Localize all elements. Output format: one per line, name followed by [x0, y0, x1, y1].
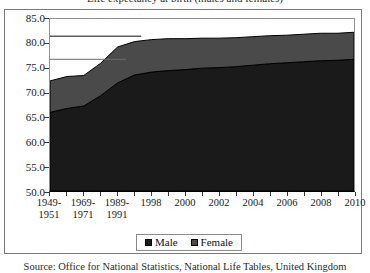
x-tick-label: 2004 — [243, 197, 264, 209]
y-axis: 85.080.075.070.065.060.055.050.0 — [5, 10, 45, 200]
legend-swatch-icon — [191, 239, 198, 246]
x-tick-mark — [117, 192, 118, 196]
x-tick-mark — [253, 192, 254, 196]
y-tick-label: 85.0 — [5, 13, 45, 24]
chart-legend: MaleFemale — [136, 234, 242, 251]
x-tick-mark — [338, 192, 339, 196]
x-tick-mark — [185, 192, 186, 196]
x-tick-mark — [236, 192, 237, 196]
y-tick-label: 75.0 — [5, 62, 45, 73]
x-tick-mark — [168, 192, 169, 196]
x-tick-label: 1949-1951 — [37, 197, 62, 221]
y-tick-label: 60.0 — [5, 137, 45, 148]
x-tick-label: 1998 — [141, 197, 162, 209]
x-tick-mark — [219, 192, 220, 196]
x-axis: 1949-19511969-19711989-19911998200020022… — [5, 197, 363, 231]
y-tick-label: 50.0 — [5, 187, 45, 198]
x-tick-label: 2000 — [175, 197, 196, 209]
y-tick-label: 80.0 — [5, 37, 45, 48]
chart-title: Life expectancy at birth (males and fema… — [0, 0, 370, 4]
legend-label: Male — [155, 237, 178, 248]
x-tick-label-line2: 1991 — [105, 209, 130, 221]
legend-item-male[interactable]: Male — [145, 237, 178, 248]
x-tick-mark — [270, 192, 271, 196]
x-tick-label: 2002 — [209, 197, 230, 209]
x-tick-mark — [151, 192, 152, 196]
y-tick-label: 70.0 — [5, 87, 45, 98]
x-tick-mark — [304, 192, 305, 196]
y-tick-label: 55.0 — [5, 162, 45, 173]
x-tick-mark — [83, 192, 84, 196]
plot-area — [49, 18, 355, 192]
legend-item-female[interactable]: Female — [191, 237, 233, 248]
x-tick-mark — [134, 192, 135, 196]
x-tick-mark — [66, 192, 67, 196]
x-tick-label: 2006 — [277, 197, 298, 209]
x-tick-mark — [355, 192, 356, 196]
x-tick-mark — [287, 192, 288, 196]
x-tick-label-line2: 1951 — [37, 209, 62, 221]
x-tick-label: 1969-1971 — [71, 197, 96, 221]
x-tick-mark — [100, 192, 101, 196]
chart-frame: 85.080.075.070.065.060.055.050.0 1949-19… — [4, 9, 362, 254]
chart-caption: Source: Office for National Statistics, … — [0, 261, 370, 273]
x-tick-label: 1989-1991 — [105, 197, 130, 221]
stacked-area-svg — [50, 19, 354, 191]
x-tick-label-line2: 1971 — [71, 209, 96, 221]
x-tick-mark — [202, 192, 203, 196]
x-tick-mark — [321, 192, 322, 196]
y-tick-label: 65.0 — [5, 112, 45, 123]
x-tick-label: 2008 — [311, 197, 332, 209]
legend-label: Female — [201, 237, 233, 248]
legend-swatch-icon — [145, 239, 152, 246]
x-tick-mark — [49, 192, 50, 196]
x-tick-label: 2010 — [345, 197, 366, 209]
